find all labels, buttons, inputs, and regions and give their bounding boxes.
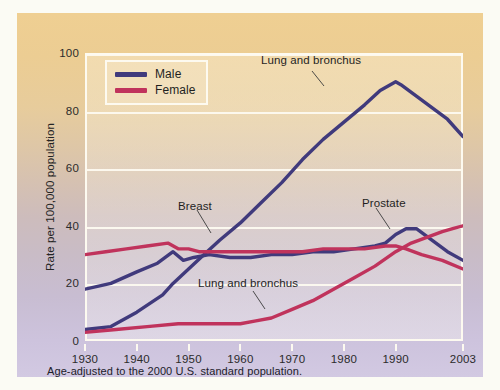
y-tick-80: 80 [66,105,79,117]
chart-footnote: Age-adjusted to the 2000 U.S. standard p… [47,365,302,377]
x-tickmark-1930 [84,344,86,351]
y-tick-20: 20 [66,277,79,289]
x-tick-1980: 1980 [331,353,357,365]
chart-card: Rate per 100,000 population 020406080100… [17,13,483,377]
x-tickmark-1940 [136,344,138,351]
legend-label-male: Male [155,67,181,81]
y-axis-tick-labels: 020406080100 [45,53,79,341]
y-tick-0: 0 [72,335,79,347]
y-tick-100: 100 [59,47,79,59]
x-tick-1960: 1960 [227,353,253,365]
legend-item-male: Male [115,66,196,82]
gridline-y-40 [87,227,461,229]
x-tick-1970: 1970 [279,353,305,365]
y-tick-60: 60 [66,162,79,174]
x-tickmark-2003 [462,344,464,351]
female-lung-label: Lung and bronchus [198,277,298,289]
x-tick-1940: 1940 [124,353,150,365]
gridline-y-80 [87,112,461,114]
y-tick-40: 40 [66,220,79,232]
male-lung-label: Lung and bronchus [261,54,361,66]
legend-swatch-male [115,72,147,77]
legend-swatch-female [115,88,147,93]
x-tickmark-1990 [395,344,397,351]
chart-legend: MaleFemale [105,60,208,105]
x-tick-1950: 1950 [175,353,201,365]
x-tickmark-1980 [343,344,345,351]
x-axis-tick-labels: 19301940195019601970198019902003 [85,345,463,365]
figure-page: Rate per 100,000 population 020406080100… [0,0,500,390]
x-tickmark-1970 [291,344,293,351]
prostate-label: Prostate [362,197,406,209]
gridline-y-60 [87,169,461,171]
x-tickmark-1960 [239,344,241,351]
legend-item-female: Female [115,82,196,98]
legend-label-female: Female [155,83,196,97]
breast-label: Breast [178,200,212,212]
x-tick-1930: 1930 [72,353,98,365]
x-tickmark-1950 [188,344,190,351]
x-tick-2003: 2003 [450,353,476,365]
x-tick-1990: 1990 [382,353,408,365]
